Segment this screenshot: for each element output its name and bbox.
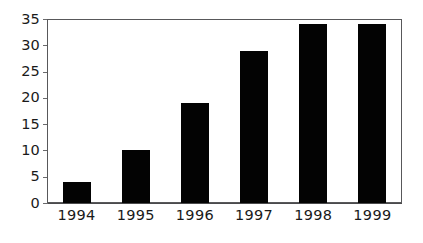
x-axis-tick-label: 1996 bbox=[165, 208, 225, 223]
x-axis-tick-label: 1999 bbox=[342, 208, 402, 223]
y-axis-tick-label: 10 bbox=[0, 143, 40, 158]
x-axis-tick-label: 1994 bbox=[47, 208, 107, 223]
bar-chart: 05101520253035 199419951996199719981999 bbox=[0, 0, 423, 243]
gridline bbox=[47, 203, 402, 204]
y-axis-tick-label: 30 bbox=[0, 38, 40, 53]
bar bbox=[181, 103, 209, 203]
bar bbox=[240, 51, 268, 203]
y-axis-tick-label: 25 bbox=[0, 64, 40, 79]
y-axis-tick-label: 0 bbox=[0, 196, 40, 211]
bars bbox=[47, 19, 402, 203]
x-axis-tick-label: 1995 bbox=[106, 208, 166, 223]
y-axis-tick-label: 5 bbox=[0, 169, 40, 184]
x-axis-tick-label: 1998 bbox=[283, 208, 343, 223]
bar bbox=[63, 182, 91, 203]
x-axis-tick-label: 1997 bbox=[224, 208, 284, 223]
bar bbox=[299, 24, 327, 203]
y-axis-tick-label: 15 bbox=[0, 117, 40, 132]
bar bbox=[358, 24, 386, 203]
y-axis-tick-label: 35 bbox=[0, 12, 40, 27]
y-axis-tick bbox=[43, 203, 48, 204]
y-axis-tick-label: 20 bbox=[0, 90, 40, 105]
bar bbox=[122, 150, 150, 203]
